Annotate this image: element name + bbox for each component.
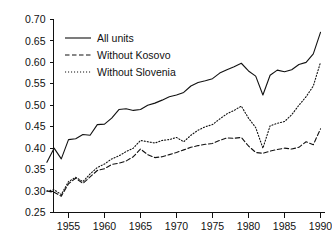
y-tick-label: 0.60 (25, 56, 46, 68)
x-axis: 19551960196519701975198019851990 (54, 213, 332, 232)
chart-container: 0.250.300.350.400.450.500.550.600.650.70… (0, 0, 332, 239)
series-lines (47, 32, 321, 196)
legend-label: All units (97, 32, 134, 44)
y-tick-label: 0.35 (25, 163, 46, 175)
series-line-without-slovenia (47, 62, 321, 194)
x-tick-label: 1990 (309, 220, 332, 232)
x-tick-label: 1955 (57, 220, 81, 232)
x-tick-label: 1970 (165, 220, 189, 232)
y-axis: 0.250.300.350.400.450.500.550.600.650.70 (25, 13, 53, 218)
legend-label: Without Kosovo (97, 49, 171, 61)
line-chart: 0.250.300.350.400.450.500.550.600.650.70… (0, 0, 332, 239)
y-tick-label: 0.25 (25, 206, 46, 218)
x-tick-label: 1980 (237, 220, 261, 232)
series-line-without-kosovo (47, 129, 321, 196)
x-tick-label: 1975 (201, 220, 225, 232)
y-tick-label: 0.40 (25, 142, 46, 154)
series-line-all-units (47, 32, 321, 162)
y-tick-label: 0.30 (25, 185, 46, 197)
legend-label: Without Slovenia (97, 66, 176, 78)
y-tick-label: 0.55 (25, 77, 46, 89)
x-tick-label: 1965 (129, 220, 153, 232)
y-tick-label: 0.70 (25, 13, 46, 25)
x-tick-label: 1960 (93, 220, 117, 232)
chart-legend: All unitsWithout KosovoWithout Slovenia (65, 32, 176, 78)
x-tick-label: 1985 (273, 220, 297, 232)
y-tick-label: 0.45 (25, 120, 46, 132)
y-tick-label: 0.50 (25, 99, 46, 111)
y-tick-label: 0.65 (25, 35, 46, 47)
